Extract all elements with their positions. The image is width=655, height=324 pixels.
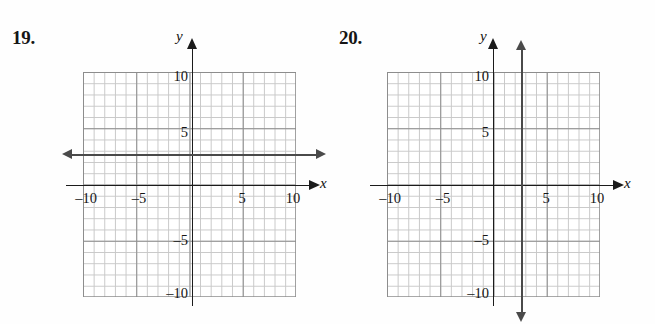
x-axis-19 [66,185,311,186]
x-tick-label-pos10-19: 10 [286,190,301,207]
x-axis-label-19: x [320,175,327,192]
x-axis-arrow-icon-19 [309,180,320,190]
y-tick-label-pos5-20: 5 [482,124,489,141]
solution-arrow-down-icon-20 [516,312,526,322]
y-axis-arrow-icon-20 [488,38,498,49]
y-tick-label-neg5-19: –5 [174,232,189,249]
solution-line-horizontal-19 [72,154,318,156]
y-tick-label-pos10-20: 10 [475,68,490,85]
x-tick-label-neg5-19: –5 [132,190,147,207]
y-tick-label-pos10-19: 10 [174,68,189,85]
problem-number-20: 20. [339,27,362,49]
y-axis-label-19: y [176,28,183,45]
problem-number-19: 19. [12,27,35,49]
x-tick-label-neg10-19: –10 [75,190,97,207]
y-tick-label-pos5-19: 5 [181,124,188,141]
x-tick-label-pos10-20: 10 [590,190,605,207]
x-axis-arrow-icon-20 [613,180,624,190]
solution-arrow-up-icon-20 [516,40,526,50]
x-tick-label-pos5-20: 5 [542,190,549,207]
x-axis-label-20: x [624,175,631,192]
y-axis-label-20: y [480,28,487,45]
solution-arrow-left-icon-19 [62,149,72,159]
worksheet-page: 19. x y –10 –5 5 10 10 5 –5 –10 20. x y … [0,0,655,324]
y-tick-label-neg10-19: –10 [166,285,188,302]
y-axis-19 [192,44,193,306]
x-tick-label-pos5-19: 5 [238,190,245,207]
y-tick-label-neg10-20: –10 [467,285,489,302]
solution-line-vertical-20 [521,50,523,312]
x-tick-label-neg5-20: –5 [436,190,451,207]
problem-panel-19: 19. x y –10 –5 5 10 10 5 –5 –10 [0,0,327,324]
y-axis-20 [493,44,494,306]
x-tick-label-neg10-20: –10 [379,190,401,207]
solution-arrow-right-icon-19 [316,149,326,159]
y-axis-arrow-icon-19 [187,38,197,49]
y-tick-label-neg5-20: –5 [475,232,490,249]
